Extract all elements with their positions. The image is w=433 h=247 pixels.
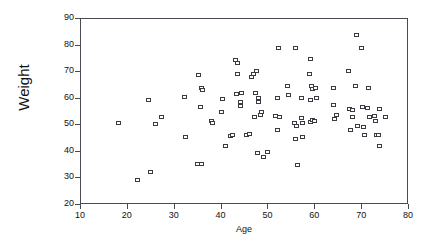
- scatter-point: [252, 115, 257, 119]
- y-tick-label: 60: [52, 93, 74, 102]
- scatter-point: [230, 133, 235, 137]
- scatter-point: [235, 61, 240, 65]
- y-tick-label: 80: [52, 40, 74, 49]
- x-tick-label: 80: [393, 210, 423, 220]
- y-tick-label-wrap: 80: [0, 40, 74, 49]
- scatter-point: [334, 113, 339, 117]
- x-tick-mark: [127, 204, 128, 209]
- scatter-point: [239, 91, 244, 95]
- scatter-point: [300, 135, 305, 139]
- scatter-point: [286, 93, 291, 97]
- scatter-point: [235, 72, 240, 76]
- scatter-point: [359, 46, 364, 50]
- scatter-point: [331, 103, 336, 107]
- x-tick-mark: [361, 204, 362, 209]
- scatter-point: [366, 86, 371, 90]
- scatter-point: [253, 91, 258, 95]
- y-tick-label: 40: [52, 146, 74, 155]
- scatter-point: [219, 110, 224, 114]
- scatter-point: [148, 170, 153, 174]
- scatter-point: [238, 104, 243, 108]
- x-tick-label: 10: [65, 210, 95, 220]
- y-tick-label-wrap: 20: [0, 199, 74, 208]
- scatter-point: [275, 96, 280, 100]
- scatter-point: [261, 155, 266, 159]
- y-tick-label-wrap: 40: [0, 146, 74, 155]
- scatter-point: [223, 144, 228, 148]
- scatter-point: [294, 124, 299, 128]
- scatter-point: [300, 121, 305, 125]
- scatter-point: [258, 113, 263, 117]
- scatter-point: [247, 132, 252, 136]
- x-tick-mark: [221, 204, 222, 209]
- scatter-point: [116, 121, 121, 125]
- y-tick-label-wrap: 60: [0, 93, 74, 102]
- scatter-point: [346, 69, 351, 73]
- scatter-point: [332, 117, 337, 121]
- scatter-point: [383, 115, 388, 119]
- scatter-point: [308, 57, 313, 61]
- scatter-point: [159, 115, 164, 119]
- plot-area: [80, 18, 408, 204]
- x-tick-mark: [174, 204, 175, 209]
- scatter-points-layer: [81, 19, 407, 203]
- y-tick-label: 90: [52, 13, 74, 22]
- scatter-point: [295, 163, 300, 167]
- scatter-point: [199, 162, 204, 166]
- scatter-point: [183, 135, 188, 139]
- scatter-point: [276, 46, 281, 50]
- scatter-chart-figure: Weight 2030405060708090 1020304050607080…: [0, 0, 433, 247]
- scatter-point: [275, 128, 280, 132]
- scatter-point: [196, 73, 201, 77]
- x-tick-mark: [408, 204, 409, 209]
- scatter-point: [355, 124, 360, 128]
- scatter-point: [354, 33, 359, 37]
- scatter-point: [210, 121, 215, 125]
- scatter-point: [200, 88, 205, 92]
- x-tick-label: 70: [346, 210, 376, 220]
- scatter-point: [348, 128, 353, 132]
- scatter-point: [373, 119, 378, 123]
- scatter-point: [353, 84, 358, 88]
- scatter-point: [377, 144, 382, 148]
- x-tick-mark: [267, 204, 268, 209]
- scatter-point: [307, 72, 312, 76]
- x-tick-label: 40: [206, 210, 236, 220]
- x-tick-label: 30: [159, 210, 189, 220]
- scatter-point: [331, 86, 336, 90]
- y-tick-label: 50: [52, 119, 74, 128]
- scatter-point: [362, 133, 367, 137]
- scatter-point: [254, 69, 259, 73]
- scatter-point: [182, 95, 187, 99]
- y-tick-label-wrap: 90: [0, 13, 74, 22]
- scatter-point: [256, 100, 261, 104]
- scatter-point: [299, 96, 304, 100]
- scatter-point: [146, 98, 151, 102]
- scatter-point: [198, 105, 203, 109]
- scatter-point: [220, 97, 225, 101]
- scatter-point: [308, 98, 313, 102]
- scatter-point: [265, 150, 270, 154]
- x-axis-label: Age: [80, 224, 408, 234]
- scatter-point: [277, 115, 282, 119]
- scatter-point: [293, 46, 298, 50]
- scatter-point: [153, 122, 158, 126]
- scatter-point: [313, 86, 318, 90]
- scatter-point: [365, 106, 370, 110]
- y-tick-label-wrap: 70: [0, 66, 74, 75]
- scatter-point: [376, 133, 381, 137]
- scatter-point: [285, 84, 290, 88]
- scatter-point: [255, 151, 260, 155]
- scatter-point: [350, 108, 355, 112]
- scatter-point: [377, 107, 382, 111]
- scatter-point: [372, 114, 377, 118]
- y-tick-label: 30: [52, 172, 74, 181]
- scatter-point: [350, 115, 355, 119]
- scatter-point: [135, 178, 140, 182]
- y-tick-label: 20: [52, 199, 74, 208]
- x-tick-mark: [80, 204, 81, 209]
- x-tick-label: 60: [299, 210, 329, 220]
- scatter-point: [314, 96, 319, 100]
- x-tick-label: 50: [252, 210, 282, 220]
- scatter-point: [312, 119, 317, 123]
